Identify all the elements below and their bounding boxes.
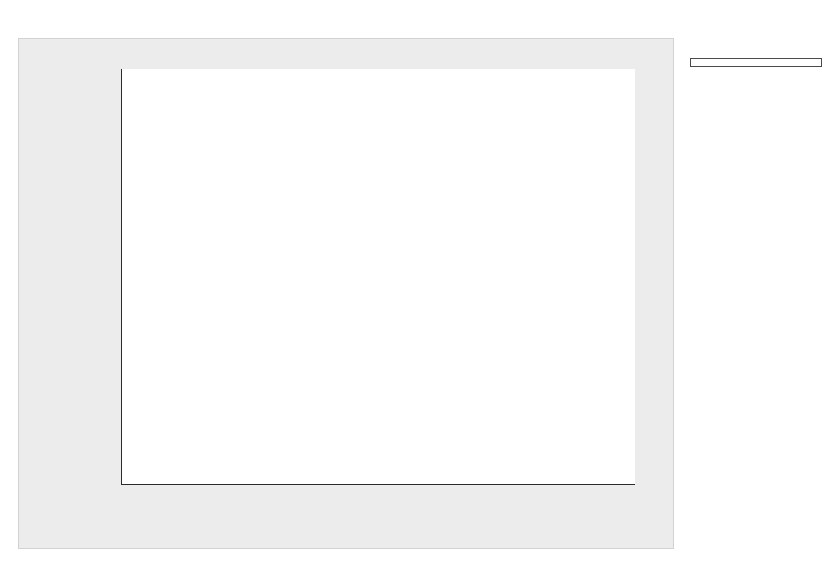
- plot-area: [121, 69, 635, 485]
- scatter-series-layer: [122, 69, 636, 485]
- chart-panel: [18, 38, 674, 549]
- statistics-legend-box: [690, 58, 822, 67]
